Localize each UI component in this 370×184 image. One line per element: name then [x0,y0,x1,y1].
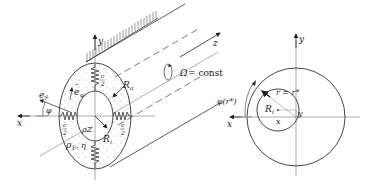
right-figure: y x r = r* R i x y φ(r*) [217,34,360,176]
svg-text:i: i [110,138,112,145]
svg-text:2: 2 [100,80,105,87]
eccentricity-x-label: x [276,117,281,126]
right-x-axis-label: x [227,119,232,129]
phi-label: φ [46,106,52,115]
rho-f-label: ρ [65,140,72,150]
omega-label: Ω [179,68,188,78]
eccentricity-y-label: y [297,109,303,118]
left-figure: z y x c 2 c 2 c 2 [17,4,223,180]
svg-text:r: r [45,94,49,101]
r-arrow [262,91,270,97]
hatching [86,11,158,62]
omega-const-label: = const [188,68,223,78]
spring-top-label: c 2 [100,72,105,87]
rho-z-label: ρZ [81,125,93,134]
svg-text:2: 2 [62,129,67,136]
x-axis-label: x [17,118,22,128]
spring-left-label: c 2 [62,121,67,136]
phi-angle-arc [43,102,45,116]
e-phi-label: e [74,87,79,97]
phi-r-label: φ(r*) [217,97,237,106]
cylinder-top-edge [86,4,185,62]
eta-label: , η [76,141,86,150]
rotation-arrow-icon [164,64,172,80]
r-i-label: R [102,134,110,144]
e-r-label: e [39,90,44,100]
r-a-label: R [122,80,130,90]
right-y-axis-label: y [298,34,305,44]
phi-r-arc [245,82,254,117]
r-eq-label: r = r* [276,88,299,97]
z-axis-label: z [212,38,218,48]
svg-text:i: i [272,108,274,115]
y-axis-label: y [97,36,104,46]
svg-text:a: a [130,84,134,91]
spring-right-label: c 2 [120,121,125,136]
rotor-diagram: z y x c 2 c 2 c 2 [0,0,370,184]
right-r-i-label: R [264,104,272,114]
svg-text:2: 2 [120,129,125,136]
